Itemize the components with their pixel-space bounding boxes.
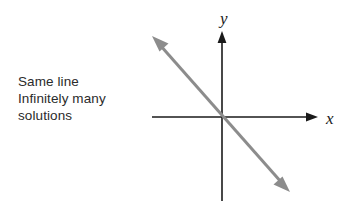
solution-line-group <box>152 36 290 192</box>
solution-line-arrowhead-lower-right-icon <box>274 177 291 193</box>
x-axis-group <box>152 113 318 122</box>
x-axis-label: x <box>325 109 334 128</box>
x-axis-arrowhead-icon <box>306 113 318 122</box>
solution-line <box>160 45 282 183</box>
solution-line-arrowhead-upper-left-icon <box>152 36 169 52</box>
y-axis-label: y <box>218 9 228 28</box>
y-axis-arrowhead-icon <box>218 31 227 43</box>
figure-container: Same line Infinitely many solutions y x <box>0 0 351 210</box>
coordinate-plane-graphic: y x <box>0 0 351 210</box>
